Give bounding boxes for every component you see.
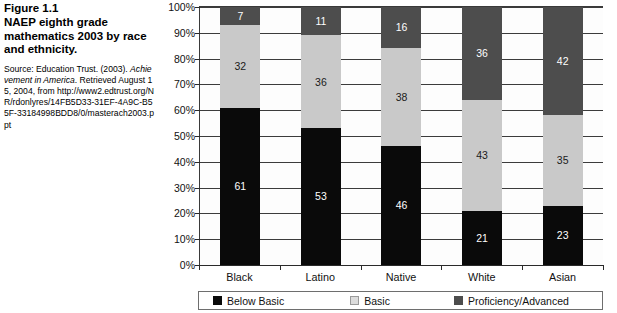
bar-value-label: 36 [315,77,327,88]
bar-segment[interactable]: 16 [381,7,421,48]
figure-caption: Figure 1.1 NAEP eighth grade mathematics… [4,2,154,131]
bar-segment[interactable]: 36 [301,35,341,128]
bar-segment[interactable]: 21 [462,211,502,265]
bar-value-label: 21 [476,233,488,244]
bar-column: 463816 [361,7,442,265]
bar-value-label: 11 [315,16,326,27]
stacked-bar-chart: 0%10%20%30%40%50%60%70%80%90%100% 613275… [163,0,617,313]
figure-number: Figure 1.1 [4,2,154,15]
bar-column: 533611 [281,7,362,265]
bar-value-label: 7 [237,11,243,22]
y-tick-label: 50% [151,130,200,142]
bar-value-label: 23 [557,230,569,241]
x-axis: BlackLatinoNativeWhiteAsian [199,265,603,287]
bar-value-label: 61 [234,181,246,192]
x-tick-mark [522,265,523,270]
chart-legend: Below BasicBasicProficiency/Advanced [198,291,603,310]
figure-container: Figure 1.1 NAEP eighth grade mathematics… [0,0,617,313]
y-tick-label: 60% [151,104,200,116]
x-tick-label: White [441,271,522,283]
bar-segment[interactable]: 36 [462,7,502,100]
x-tick-mark [280,265,281,270]
bar-segment[interactable]: 42 [543,7,583,115]
bar-group: 61327533611463816214336233542 [200,7,603,265]
legend-label: Proficiency/Advanced [468,295,569,307]
stacked-bar[interactable]: 214336 [462,7,502,265]
x-tick-mark [361,265,362,270]
y-tick-label: 0% [151,259,200,271]
bar-value-label: 36 [476,48,488,59]
bar-segment[interactable]: 43 [462,100,502,211]
bar-segment[interactable]: 11 [301,7,341,35]
bar-value-label: 35 [557,155,569,166]
x-tick-label: Native [361,271,442,283]
figure-title: NAEP eighth grade mathematics 2003 by ra… [4,16,154,57]
stacked-bar[interactable]: 61327 [220,7,260,265]
y-tick-label: 100% [151,1,200,13]
stacked-bar[interactable]: 233542 [543,7,583,265]
bar-segment[interactable]: 53 [301,128,341,265]
y-tick-label: 90% [151,27,200,39]
y-tick-label: 20% [151,207,200,219]
x-axis-labels: BlackLatinoNativeWhiteAsian [199,271,603,283]
bar-value-label: 46 [396,200,408,211]
y-tick-label: 40% [151,156,200,168]
stacked-bar[interactable]: 533611 [301,7,341,265]
x-tick-mark [441,265,442,270]
bar-column: 61327 [200,7,281,265]
legend-swatch [213,296,222,305]
bar-segment[interactable]: 38 [381,48,421,146]
bar-value-label: 53 [315,191,327,202]
bar-value-label: 38 [396,92,408,103]
stacked-bar[interactable]: 463816 [381,7,421,265]
bar-column: 214336 [442,7,523,265]
y-tick-label: 10% [151,233,200,245]
bar-column: 233542 [522,7,603,265]
legend-item[interactable]: Below Basic [213,295,284,307]
bar-value-label: 43 [476,150,488,161]
x-tick-mark [603,265,604,270]
figure-source: Source: Education Trust. (2003). Achieve… [4,64,154,131]
bar-segment[interactable]: 32 [220,25,260,108]
bar-value-label: 16 [396,22,408,33]
bar-segment[interactable]: 7 [220,7,260,25]
x-tick-mark [199,265,200,270]
bar-value-label: 42 [557,56,569,67]
y-tick-label: 30% [151,182,200,194]
bar-segment[interactable]: 23 [543,206,583,265]
y-tick-label: 70% [151,78,200,90]
legend-item[interactable]: Proficiency/Advanced [454,295,569,307]
legend-label: Below Basic [227,295,284,307]
source-prefix: Source: Education Trust. (2003). [4,64,130,74]
y-tick-label: 80% [151,53,200,65]
legend-swatch [350,296,359,305]
legend-item[interactable]: Basic [350,295,390,307]
x-tick-label: Asian [522,271,603,283]
bar-segment[interactable]: 46 [381,146,421,265]
legend-label: Basic [364,295,390,307]
legend-swatch [454,296,463,305]
x-tick-label: Latino [280,271,361,283]
plot-area: 0%10%20%30%40%50%60%70%80%90%100% 613275… [199,6,603,265]
x-tick-label: Black [199,271,280,283]
bar-segment[interactable]: 35 [543,115,583,205]
bar-segment[interactable]: 61 [220,108,260,265]
bar-value-label: 32 [234,61,246,72]
